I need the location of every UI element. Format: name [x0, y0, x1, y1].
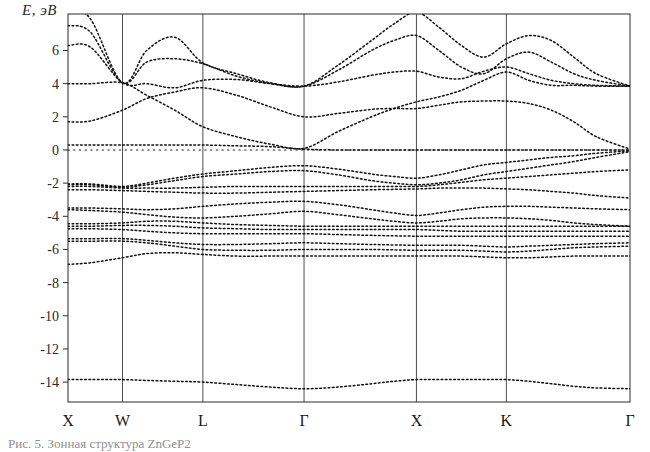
x-axis-tick-label: K [501, 412, 513, 429]
y-axis-tick-label: -2 [47, 176, 59, 191]
x-axis-tick-label: L [198, 412, 208, 429]
y-axis-tick-label: 0 [52, 143, 59, 158]
band-curve [68, 151, 630, 187]
band-curve [68, 44, 630, 88]
band-curve [68, 88, 630, 149]
y-axis-tick-label: 4 [52, 77, 59, 92]
y-axis-tick-label: 6 [52, 43, 59, 58]
band-curve [68, 145, 630, 150]
y-axis-tick-label: -14 [40, 375, 59, 390]
band-curve [68, 26, 630, 87]
band-curve [68, 170, 630, 188]
figure-caption: Рис. 5. Зонная структура ZnGeP2 [8, 436, 191, 452]
band-curve [68, 201, 630, 215]
band-curve [68, 379, 630, 388]
y-axis-tick-label: -12 [40, 342, 59, 357]
x-axis-tick-label: X [411, 412, 423, 429]
y-axis-tick-label: -8 [47, 276, 59, 291]
band-curve [68, 253, 630, 265]
band-curve [68, 9, 630, 87]
y-axis-tick-label: -6 [47, 242, 59, 257]
x-axis-tick-label: W [115, 412, 131, 429]
band-curve [68, 188, 630, 198]
y-axis-tick-label: 2 [52, 110, 59, 125]
x-axis-tick-label: X [62, 412, 74, 429]
band-curve [68, 72, 630, 149]
y-axis-tick-label: -10 [40, 309, 59, 324]
plot-frame [68, 14, 630, 402]
band-curve [68, 210, 630, 227]
band-structure-figure: E, эВ 6420-2-4-6-8-10-12-14XWLΓXKΓ Рис. … [0, 0, 650, 452]
x-axis-tick-label: Γ [625, 412, 634, 429]
x-axis-tick-label: Γ [299, 412, 308, 429]
band-structure-plot: 6420-2-4-6-8-10-12-14XWLΓXKΓ [0, 0, 650, 452]
band-curve [68, 241, 630, 252]
y-axis-tick-label: -4 [47, 209, 59, 224]
